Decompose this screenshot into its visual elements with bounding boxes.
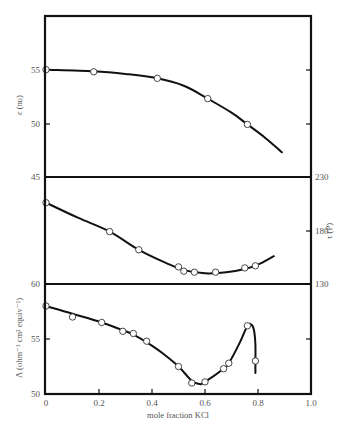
middle-curve [46, 203, 274, 274]
middle-data-point [175, 264, 181, 270]
x-tick-0.4: 0.4 [146, 398, 158, 408]
bottom-data-point [69, 314, 75, 320]
y-tick-50: 50 [31, 119, 41, 129]
top-data-point [205, 95, 211, 101]
y-tick-60: 60 [31, 279, 41, 289]
y-tick-50-bottom: 50 [31, 389, 41, 399]
middle-data-point [242, 265, 248, 271]
bottom-curve [46, 306, 255, 384]
bottom-data-point [202, 379, 208, 385]
middle-data-point [252, 263, 258, 269]
x-tick-0: 0 [44, 398, 49, 408]
y-tick-55: 55 [31, 65, 41, 75]
x-tick-0.2: 0.2 [93, 398, 104, 408]
data-points [43, 67, 259, 387]
data-curves [46, 70, 282, 385]
top-data-point [154, 75, 160, 81]
bottom-data-point [226, 360, 232, 366]
bottom-data-point [220, 366, 226, 372]
y-tick-45: 45 [31, 172, 41, 182]
x-tick-0.8: 0.8 [252, 398, 264, 408]
middle-data-point [212, 269, 218, 275]
bottom-data-point [130, 330, 136, 336]
y-tick-130: 130 [315, 279, 329, 289]
top-curve [46, 70, 282, 153]
figure: 55 50 45 60 55 50 230 180 130 0 0.2 0.4 … [0, 0, 351, 431]
x-axis-label: mole fraction KCl [147, 410, 209, 420]
middle-data-point [181, 268, 187, 274]
y-axis-label-lambda: Λ (ohm⁻¹ cm² equiv⁻¹) [14, 298, 24, 378]
middle-data-point [106, 228, 112, 234]
top-data-point [244, 121, 250, 127]
middle-data-point [191, 269, 197, 275]
bottom-data-point [99, 319, 105, 325]
ticks [45, 70, 311, 394]
x-tick-0.6: 0.6 [199, 398, 211, 408]
bottom-data-point [120, 328, 126, 334]
bottom-data-point [244, 323, 250, 329]
y-tick-55-bottom: 55 [31, 334, 41, 344]
bottom-data-point [175, 363, 181, 369]
x-tick-1.0: 1.0 [305, 398, 317, 408]
plot-frame [45, 16, 311, 394]
middle-data-point [136, 247, 142, 253]
bottom-data-point [189, 380, 195, 386]
y-tick-230: 230 [315, 172, 329, 182]
y-axis-label-tau: τ (P) [324, 223, 334, 239]
y-axis-label-epsilon: ε (nu) [14, 95, 24, 115]
bottom-data-point [144, 338, 150, 344]
bottom-data-point [252, 358, 258, 364]
top-data-point [91, 69, 97, 75]
